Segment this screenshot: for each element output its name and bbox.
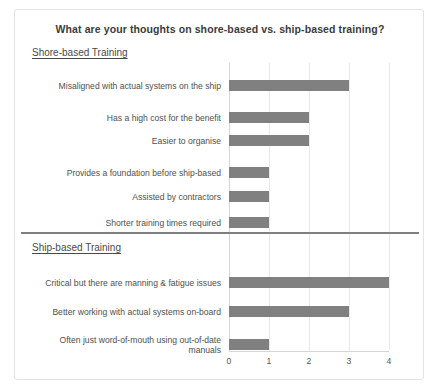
bar-row: Provides a foundation before ship-based: [21, 167, 389, 178]
bar-row: Easier to organise: [21, 135, 389, 146]
bar-category-label: Has a high cost for the benefit: [21, 113, 221, 123]
axis-baseline: [229, 351, 389, 352]
bar: [229, 112, 309, 123]
bar-category-label: Misaligned with actual systems on the sh…: [21, 81, 221, 91]
bar-row: Shorter training times required: [21, 217, 389, 228]
bar: [229, 277, 389, 288]
bar: [229, 306, 349, 317]
bar-row: Critical but there are manning & fatigue…: [21, 277, 389, 288]
bar-category-label: Assisted by contractors: [21, 192, 221, 202]
bar-row: Misaligned with actual systems on the sh…: [21, 80, 389, 91]
section-divider: [21, 232, 419, 234]
bar-category-label: Provides a foundation before ship-based: [21, 168, 221, 178]
bar-category-label: Easier to organise: [21, 136, 221, 146]
x-axis-tick-label: 3: [347, 356, 352, 366]
bar: [229, 167, 269, 178]
bar-category-label: Shorter training times required: [21, 218, 221, 228]
bar: [229, 217, 269, 228]
bar: [229, 191, 269, 202]
bar-row: Assisted by contractors: [21, 191, 389, 202]
gridline: [389, 63, 390, 351]
x-axis-tick-label: 4: [387, 356, 392, 366]
chart-card: What are your thoughts on shore-based vs…: [14, 9, 424, 380]
plot-area: Misaligned with actual systems on the sh…: [15, 10, 425, 381]
bar: [229, 339, 269, 350]
bar-row: Better working with actual systems on-bo…: [21, 306, 389, 317]
bar: [229, 80, 349, 91]
bar: [229, 135, 309, 146]
bar-category-label: Often just word-of-mouth using out-of-da…: [21, 335, 221, 355]
bar-category-label: Better working with actual systems on-bo…: [21, 307, 221, 317]
x-axis-tick-label: 2: [307, 356, 312, 366]
x-axis-tick-label: 0: [227, 356, 232, 366]
bar-row: Often just word-of-mouth using out-of-da…: [21, 339, 389, 350]
x-axis-tick-label: 1: [267, 356, 272, 366]
bar-row: Has a high cost for the benefit: [21, 112, 389, 123]
bar-category-label: Critical but there are manning & fatigue…: [21, 278, 221, 288]
